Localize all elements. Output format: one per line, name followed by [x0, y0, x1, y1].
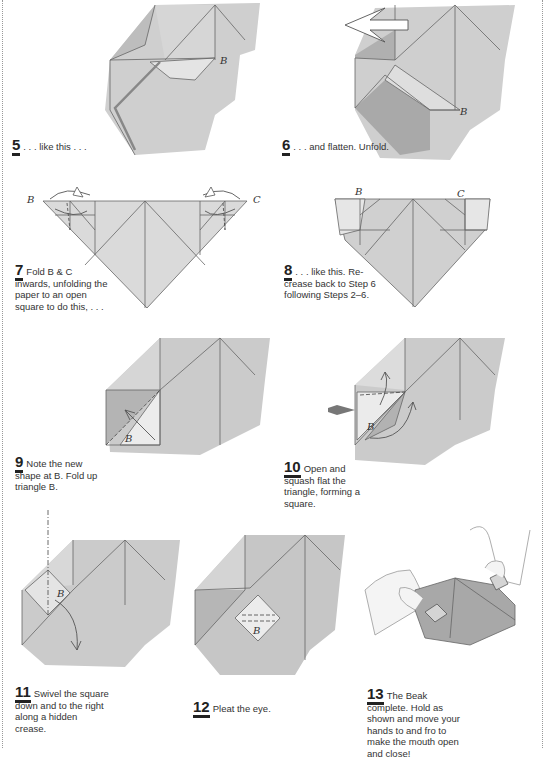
page-border-right [542, 0, 543, 748]
svg-text:B: B [26, 194, 34, 205]
step-7-caption: 7Fold B & C inwards, unfolding the paper… [15, 263, 110, 312]
step-10-diagram: B [325, 330, 510, 465]
svg-text:B: B [252, 625, 260, 636]
step-number: 6 [282, 138, 290, 151]
step-9-caption: 9Note the new shape at B. Fold up triang… [15, 455, 105, 493]
svg-text:C: C [253, 194, 261, 205]
step-12-diagram: B [190, 520, 350, 680]
svg-text:B: B [459, 106, 467, 117]
step-10-caption: 10Open and squash flat the triangle, for… [284, 460, 374, 509]
svg-text:B: B [354, 186, 362, 197]
step-number: 11 [15, 685, 31, 698]
step-13-caption: 13The Beak complete. Hold as shown and m… [367, 687, 462, 759]
svg-text:B: B [366, 421, 374, 432]
step-number: 5 [12, 138, 20, 151]
svg-text:B: B [219, 55, 227, 66]
step-11-diagram: B [15, 505, 185, 670]
step-number: 8 [284, 263, 292, 276]
svg-text:C: C [457, 188, 465, 199]
step-5-diagram: B [95, 0, 275, 160]
step-number: 9 [15, 455, 23, 468]
step-11-caption: 11Swivel the square down and to the righ… [15, 685, 110, 734]
step-13-diagram [355, 510, 540, 660]
step-5-caption: 5. . . like this . . . [12, 138, 132, 153]
page-border-left [2, 0, 3, 748]
step-8-caption: 8. . . like this. Re-crease back to Step… [284, 263, 376, 301]
step-12-caption: 12Pleat the eye. [193, 700, 313, 715]
push-arrow-icon [328, 405, 355, 415]
svg-text:B: B [56, 588, 64, 599]
step-number: 7 [15, 263, 23, 276]
step-number: 13 [367, 687, 384, 700]
step-number: 12 [193, 700, 210, 713]
step-9-diagram: B [100, 330, 275, 455]
svg-text:B: B [124, 433, 132, 444]
step-6-caption: 6. . . and flatten. Unfold. [282, 138, 392, 153]
step-number: 10 [284, 460, 301, 473]
